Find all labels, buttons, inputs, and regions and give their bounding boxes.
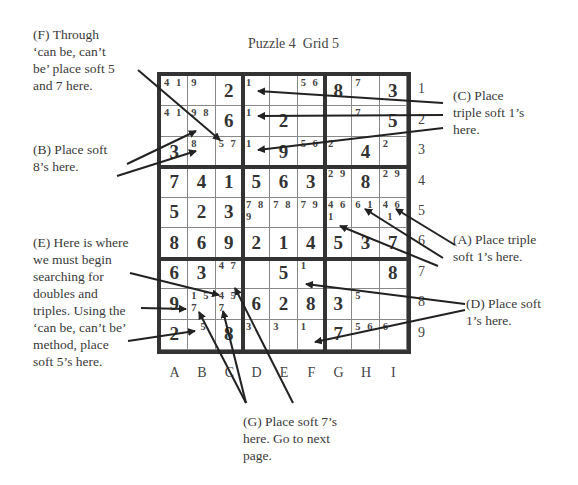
arrow-e3 <box>128 331 195 341</box>
arrow-a2 <box>365 209 443 258</box>
arrow-f <box>138 70 220 140</box>
arrow-a1 <box>396 209 455 245</box>
annotation-arrows <box>0 0 578 485</box>
arrow-g2 <box>223 311 246 403</box>
arrow-d2 <box>315 310 465 342</box>
arrow-e1 <box>130 273 219 295</box>
arrow-e2 <box>141 308 186 309</box>
arrow-b1 <box>127 131 196 164</box>
arrow-g1 <box>199 312 246 403</box>
arrow-g3 <box>235 288 293 403</box>
arrow-c3 <box>258 128 443 150</box>
arrow-c2 <box>258 115 443 116</box>
arrow-d1 <box>306 284 465 304</box>
arrow-c1 <box>258 91 443 103</box>
